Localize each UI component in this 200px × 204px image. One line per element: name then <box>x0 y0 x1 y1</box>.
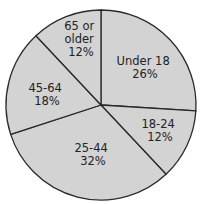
pie-chart: Under 18 26% 18-24 12% 25-44 32% 45-64 1… <box>0 0 200 204</box>
label-65-or-older: 65 or older 12% <box>64 19 98 59</box>
